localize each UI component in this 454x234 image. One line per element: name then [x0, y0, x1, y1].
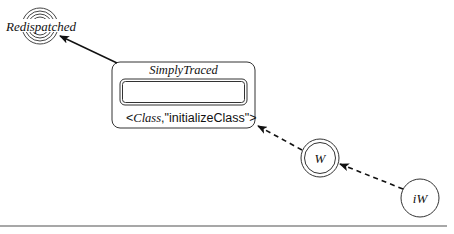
- node-label-redispatched: Redispatched: [5, 19, 77, 34]
- label-open-bracket: <: [126, 111, 133, 125]
- state-diagram: Redispatched SimplyTraced <Class,"initia…: [0, 0, 454, 234]
- transition-arrow-iw-to-w[interactable]: [340, 164, 403, 189]
- node-label-class-initialize: <Class,"initializeClass">: [126, 111, 256, 125]
- node-iw[interactable]: iW: [401, 179, 439, 217]
- node-w[interactable]: W: [301, 139, 339, 177]
- node-title-simply-traced: SimplyTraced: [149, 63, 218, 77]
- node-label-w: W: [315, 151, 327, 166]
- node-simply-traced[interactable]: SimplyTraced <Class,"initializeClass">: [112, 62, 256, 128]
- node-label-iw: iW: [413, 191, 429, 206]
- transition-arrow-w-to-simply_traced[interactable]: [258, 126, 302, 150]
- label-method: ,"initializeClass">: [161, 111, 256, 125]
- label-class: Class: [133, 111, 161, 125]
- transition-arrow-simply_traced-to-redispatched[interactable]: [60, 36, 117, 63]
